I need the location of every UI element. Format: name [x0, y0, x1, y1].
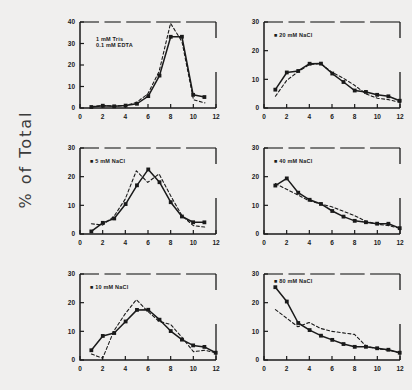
- panel-condition-line: 0.1 mM EDTA: [96, 42, 133, 48]
- panel-condition-line: ■ 20 mM NaCl: [274, 32, 312, 38]
- svg-text:10: 10: [190, 113, 198, 120]
- data-point-marker: [319, 334, 323, 338]
- data-point-marker: [169, 35, 173, 39]
- svg-text:8: 8: [169, 239, 173, 246]
- svg-text:10: 10: [68, 83, 76, 90]
- data-point-marker: [124, 320, 128, 324]
- series-solid: [89, 168, 206, 234]
- data-point-marker: [203, 95, 207, 99]
- svg-text:8: 8: [353, 365, 357, 372]
- data-point-marker: [180, 35, 184, 39]
- data-point-marker: [89, 348, 93, 352]
- data-point-marker: [169, 329, 173, 333]
- data-point-marker: [158, 180, 162, 184]
- plot-area: 0246810120102030: [42, 134, 226, 260]
- svg-text:20: 20: [252, 47, 260, 54]
- panel-condition-label: ■ 40 mM NaCl: [274, 158, 312, 164]
- svg-text:30: 30: [252, 18, 260, 25]
- axis-ticks: 024681012010203040: [68, 18, 220, 120]
- svg-text:20: 20: [68, 173, 76, 180]
- series-dashed: [275, 63, 400, 102]
- data-point-marker: [169, 200, 173, 204]
- svg-text:10: 10: [252, 76, 260, 83]
- panel-condition-label: ■ 80 mM NaCl: [274, 278, 312, 284]
- data-point-marker: [330, 338, 334, 342]
- figure-root: % of Total 0246810120102030401 mM Tris0.…: [0, 0, 412, 390]
- plot-area: 024681012010203040: [42, 8, 226, 134]
- svg-text:4: 4: [308, 365, 312, 372]
- svg-text:8: 8: [169, 365, 173, 372]
- panel-condition-label: ■ 20 mM NaCl: [274, 32, 312, 38]
- series-solid: [89, 308, 217, 355]
- chart-panel: 0246810120102030■ 10 mM NaCl: [42, 260, 226, 386]
- svg-text:30: 30: [252, 144, 260, 151]
- data-point-marker: [342, 342, 346, 346]
- svg-text:2: 2: [285, 113, 289, 120]
- svg-text:10: 10: [374, 113, 382, 120]
- svg-text:20: 20: [68, 299, 76, 306]
- svg-text:8: 8: [353, 113, 357, 120]
- chart-panel: 0246810120102030401 mM Tris0.1 mM EDTA: [42, 8, 226, 134]
- svg-text:0: 0: [78, 113, 82, 120]
- data-point-marker: [135, 308, 139, 312]
- svg-text:0: 0: [78, 365, 82, 372]
- svg-text:10: 10: [68, 328, 76, 335]
- svg-text:10: 10: [252, 202, 260, 209]
- svg-text:4: 4: [124, 239, 128, 246]
- svg-text:30: 30: [68, 270, 76, 277]
- svg-text:12: 12: [212, 365, 220, 372]
- svg-text:0: 0: [255, 356, 259, 363]
- y-axis-label: % of Total: [16, 85, 35, 235]
- panel-condition-label: ■ 10 mM NaCl: [90, 284, 128, 290]
- svg-text:6: 6: [330, 239, 334, 246]
- svg-text:20: 20: [252, 173, 260, 180]
- data-point-marker: [146, 168, 150, 172]
- svg-text:12: 12: [396, 365, 404, 372]
- svg-text:12: 12: [212, 113, 220, 120]
- data-point-marker: [89, 230, 93, 234]
- panel-condition-line: ■ 40 mM NaCl: [274, 158, 312, 164]
- data-point-marker: [296, 321, 300, 325]
- svg-text:10: 10: [68, 202, 76, 209]
- panel-condition-line: ■ 10 mM NaCl: [90, 284, 128, 290]
- svg-text:0: 0: [262, 365, 266, 372]
- svg-text:20: 20: [68, 61, 76, 68]
- data-point-marker: [273, 285, 277, 289]
- panel-condition-label: 1 mM Tris0.1 mM EDTA: [96, 36, 133, 48]
- series-solid: [273, 176, 401, 230]
- data-point-marker: [364, 90, 368, 94]
- svg-text:0: 0: [71, 356, 75, 363]
- series-dashed: [275, 184, 400, 229]
- svg-text:2: 2: [101, 239, 105, 246]
- svg-text:30: 30: [252, 270, 260, 277]
- svg-text:2: 2: [285, 239, 289, 246]
- chart-panel: 0246810120102030■ 5 mM NaCl: [42, 134, 226, 260]
- data-point-marker: [308, 328, 312, 332]
- svg-text:6: 6: [146, 239, 150, 246]
- data-point-marker: [285, 176, 289, 180]
- data-point-marker: [285, 71, 289, 75]
- chart-panel: 0246810120102030■ 20 mM NaCl: [226, 8, 410, 134]
- svg-text:0: 0: [255, 104, 259, 111]
- data-point-marker: [330, 209, 334, 213]
- series-solid: [273, 285, 401, 354]
- svg-text:6: 6: [330, 113, 334, 120]
- data-point-marker: [203, 220, 207, 224]
- data-point-marker: [285, 300, 289, 304]
- svg-text:10: 10: [190, 365, 198, 372]
- series-solid: [273, 62, 401, 103]
- svg-text:10: 10: [252, 328, 260, 335]
- plot-area: 0246810120102030: [226, 8, 410, 134]
- svg-text:4: 4: [308, 239, 312, 246]
- svg-text:0: 0: [262, 239, 266, 246]
- panel-grid: 0246810120102030401 mM Tris0.1 mM EDTA 0…: [42, 8, 410, 386]
- svg-text:8: 8: [353, 239, 357, 246]
- chart-panel: 0246810120102030■ 40 mM NaCl: [226, 134, 410, 260]
- svg-text:6: 6: [330, 365, 334, 372]
- series-dashed: [91, 171, 204, 227]
- svg-text:0: 0: [262, 113, 266, 120]
- data-point-marker: [191, 343, 195, 347]
- svg-text:40: 40: [68, 18, 76, 25]
- svg-text:0: 0: [71, 230, 75, 237]
- panel-condition-line: ■ 80 mM NaCl: [274, 278, 312, 284]
